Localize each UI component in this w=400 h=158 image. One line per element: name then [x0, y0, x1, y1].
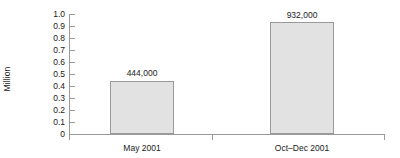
y-axis-tick: 0.7 [70, 50, 75, 51]
y-axis-tick-label: 0.9 [53, 22, 65, 31]
y-axis-tick: 0 [70, 134, 75, 135]
x-axis-label-oct-dec-2001: Oct–Dec 2001 [275, 144, 329, 153]
y-axis-tick: 0.4 [70, 86, 75, 87]
y-axis-tick-label: 0.1 [53, 118, 65, 127]
bar-value-label: 444,000 [127, 69, 158, 78]
y-axis-tick: 0.5 [70, 74, 75, 75]
y-axis-tick-label: 0 [60, 130, 65, 139]
y-axis-tick-label: 0.4 [53, 82, 65, 91]
category-separator [384, 135, 385, 140]
y-axis-tick-label: 0.5 [53, 70, 65, 79]
y-axis-tick: 0.9 [70, 26, 75, 27]
y-axis-title: Million [0, 0, 14, 158]
y-axis-tick: 0.3 [70, 98, 75, 99]
x-axis-label-may-2001: May 2001 [123, 144, 160, 153]
x-axis-line [69, 134, 385, 135]
y-axis-tick: 0.6 [70, 62, 75, 63]
y-axis-tick-label: 0.8 [53, 34, 65, 43]
bar-value-label: 932,000 [287, 11, 318, 20]
y-axis-tick-label: 1.0 [53, 10, 65, 19]
y-axis-tick-label: 0.3 [53, 94, 65, 103]
category-separator [69, 135, 70, 140]
bar-may-2001[interactable]: 444,000 [110, 81, 174, 134]
y-axis-tick: 0.1 [70, 122, 75, 123]
y-axis-tick: 1.0 [70, 14, 75, 15]
plot-area: 1.0 0.9 0.8 0.7 0.6 0.5 0.4 0.3 0.2 0.1 [69, 14, 385, 134]
bar-oct-dec-2001[interactable]: 932,000 [270, 22, 334, 134]
y-axis-tick-label: 0.6 [53, 58, 65, 67]
y-axis-tick: 0.2 [70, 110, 75, 111]
y-axis-tick: 0.8 [70, 38, 75, 39]
y-axis-tick-label: 0.2 [53, 106, 65, 115]
bar-chart: Million 1.0 0.9 0.8 0.7 0.6 0.5 0.4 0.3 [0, 0, 400, 158]
y-axis-tick-label: 0.7 [53, 46, 65, 55]
category-separator [212, 135, 213, 140]
